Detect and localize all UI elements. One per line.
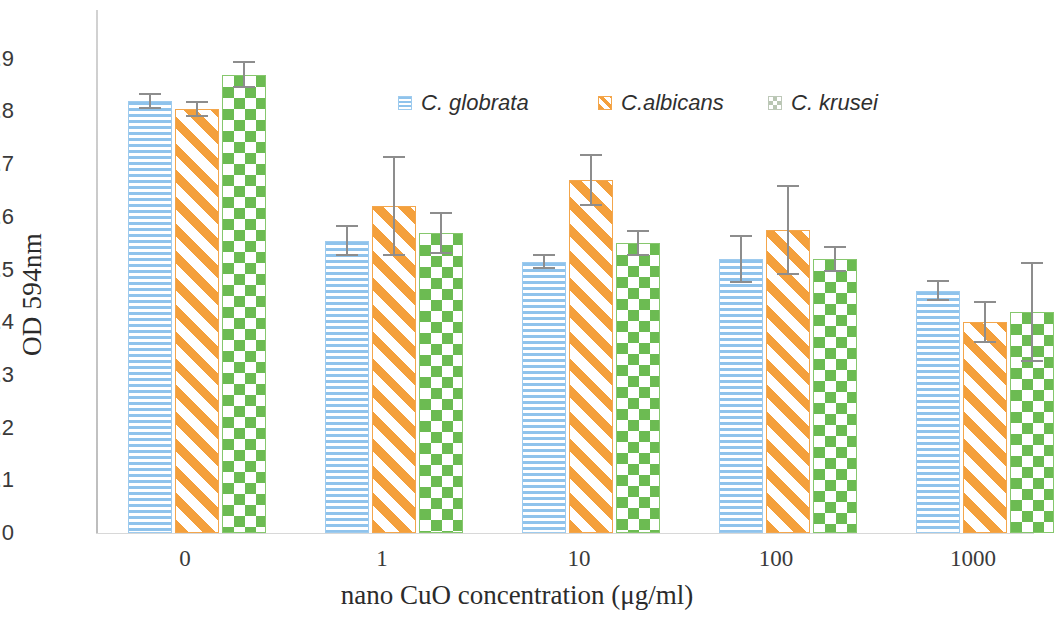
bar-calbicans-1000 <box>963 322 1007 533</box>
y-tick-0.5: 0.5 <box>0 257 14 283</box>
x-tick-100: 100 <box>716 546 836 572</box>
error-bar-cap-bottom <box>186 115 208 117</box>
x-tick-1000: 1000 <box>913 546 1033 572</box>
error-bar-cap-bottom <box>627 254 649 256</box>
error-bar-cap-top <box>777 185 799 187</box>
error-bar-stem <box>937 280 939 301</box>
error-bar-cap-bottom <box>1021 360 1043 362</box>
legend-item-2: C. krusei <box>768 90 878 116</box>
x-axis-line <box>96 533 1034 534</box>
error-bar-cap-top <box>336 225 358 227</box>
error-bar-ckrusei-10 <box>616 230 660 256</box>
error-bar-cap-bottom <box>824 270 846 272</box>
error-bar-cap-bottom <box>430 252 452 254</box>
error-bar-stem <box>740 235 742 282</box>
bar-calbicans-100 <box>766 230 810 533</box>
error-bar-calbicans-10 <box>569 154 613 207</box>
error-bar-cap-top <box>533 254 555 256</box>
bar-cglobrata-0 <box>128 101 172 533</box>
error-bar-cglobrata-1 <box>325 225 369 257</box>
error-bar-stem <box>834 246 836 272</box>
error-bar-cap-top <box>974 301 996 303</box>
bar-cglobrata-10 <box>522 262 566 533</box>
x-tick-1: 1 <box>322 546 442 572</box>
bar-calbicans-0 <box>175 109 219 533</box>
legend-swatch-icon-2 <box>768 96 782 110</box>
error-bar-cap-bottom <box>383 254 405 256</box>
legend-label-2: C. krusei <box>791 90 878 116</box>
error-bar-cap-top <box>627 230 649 232</box>
error-bar-cglobrata-1000 <box>916 280 960 301</box>
error-bar-stem <box>243 61 245 87</box>
x-tick-10: 10 <box>519 546 639 572</box>
error-bar-cap-bottom <box>336 254 358 256</box>
error-bar-calbicans-0 <box>175 101 219 117</box>
error-bar-stem <box>787 185 789 275</box>
error-bar-cap-bottom <box>927 299 949 301</box>
error-bar-cap-top <box>927 280 949 282</box>
error-bar-cap-bottom <box>974 341 996 343</box>
error-bar-cap-bottom <box>777 273 799 275</box>
y-tick-0: 0 <box>0 520 14 546</box>
y-tick-0.8: 0.8 <box>0 98 14 124</box>
y-tick-0.3: 0.3 <box>0 362 14 388</box>
bar-calbicans-10 <box>569 180 613 533</box>
bar-ckrusei-100 <box>813 259 857 533</box>
error-bar-stem <box>1031 262 1033 362</box>
error-bar-cap-top <box>139 93 161 95</box>
error-bar-ckrusei-1000 <box>1010 262 1054 362</box>
error-bar-cglobrata-100 <box>719 235 763 282</box>
error-bar-stem <box>590 154 592 207</box>
error-bar-cap-top <box>1021 262 1043 264</box>
legend-swatch-icon-1 <box>598 96 612 110</box>
bar-ckrusei-1 <box>419 233 463 533</box>
y-axis-line <box>96 10 98 534</box>
error-bar-cap-top <box>383 156 405 158</box>
bar-cglobrata-1000 <box>916 291 960 533</box>
error-bar-cap-top <box>580 154 602 156</box>
legend-swatch-icon-0 <box>398 96 412 110</box>
error-bar-calbicans-1000 <box>963 301 1007 343</box>
x-axis-title: nano CuO concentration (μg/ml) <box>0 580 1034 611</box>
error-bar-cap-top <box>430 212 452 214</box>
bar-cglobrata-1 <box>325 241 369 533</box>
y-tick-0.4: 0.4 <box>0 309 14 335</box>
x-tick-0: 0 <box>125 546 245 572</box>
y-tick-0.6: 0.6 <box>0 204 14 230</box>
error-bar-stem <box>393 156 395 256</box>
error-bar-cap-top <box>186 101 208 103</box>
error-bar-cap-bottom <box>139 107 161 109</box>
error-bar-stem <box>346 225 348 257</box>
y-tick-0.2: 0.2 <box>0 415 14 441</box>
error-bar-calbicans-100 <box>766 185 810 275</box>
legend-label-1: C.albicans <box>621 90 724 116</box>
error-bar-stem <box>984 301 986 343</box>
error-bar-cap-top <box>233 61 255 63</box>
error-bar-stem <box>440 212 442 254</box>
error-bar-stem <box>637 230 639 256</box>
y-tick-0.7: 0.7 <box>0 151 14 177</box>
error-bar-cap-bottom <box>233 86 255 88</box>
error-bar-calbicans-1 <box>372 156 416 256</box>
bar-cglobrata-100 <box>719 259 763 533</box>
bar-ckrusei-0 <box>222 75 266 533</box>
legend-item-1: C.albicans <box>598 90 724 116</box>
error-bar-cglobrata-10 <box>522 254 566 270</box>
error-bar-ckrusei-1 <box>419 212 463 254</box>
error-bar-ckrusei-100 <box>813 246 857 272</box>
legend-item-0: C. globrata <box>398 90 529 116</box>
y-tick-0.1: 0.1 <box>0 467 14 493</box>
error-bar-cap-top <box>730 235 752 237</box>
error-bar-cap-top <box>824 246 846 248</box>
y-axis-title: OD 594nm <box>17 175 48 415</box>
error-bar-cglobrata-0 <box>128 93 172 109</box>
error-bar-ckrusei-0 <box>222 61 266 87</box>
legend-label-0: C. globrata <box>421 90 529 116</box>
error-bar-cap-bottom <box>533 267 555 269</box>
error-bar-cap-bottom <box>580 204 602 206</box>
error-bar-cap-bottom <box>730 281 752 283</box>
bar-ckrusei-10 <box>616 243 660 533</box>
y-tick-0.9: 0.9 <box>0 46 14 72</box>
